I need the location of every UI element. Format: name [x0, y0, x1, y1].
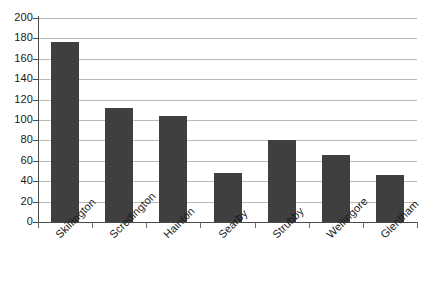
x-tick-mark	[38, 222, 39, 228]
y-tick-label-wrap: 140	[0, 73, 33, 84]
y-tick-label-wrap: 60	[0, 155, 33, 166]
bar[interactable]	[159, 116, 187, 222]
y-tick-label-wrap: 20	[0, 196, 33, 207]
y-tick-label-wrap: 160	[0, 53, 33, 64]
x-tick-mark	[200, 222, 201, 228]
x-tick-mark	[363, 222, 364, 228]
bar-chart: 020406080100120140160180200 SkillingtonS…	[0, 0, 431, 296]
y-tick-label: 160	[3, 53, 33, 64]
y-tick-label: 200	[3, 12, 33, 23]
y-tick-label-wrap: 100	[0, 114, 33, 125]
y-tick-label: 140	[3, 73, 33, 84]
y-tick-label-wrap: 120	[0, 94, 33, 105]
y-tick-label: 180	[3, 32, 33, 43]
bar[interactable]	[51, 42, 79, 222]
y-tick-label: 100	[3, 114, 33, 125]
y-tick-label: 80	[3, 134, 33, 145]
x-tick-mark	[417, 222, 418, 228]
y-tick-label-wrap: 0	[0, 216, 33, 227]
y-tick-label: 20	[3, 196, 33, 207]
y-tick-label: 0	[3, 216, 33, 227]
y-tick-label: 60	[3, 155, 33, 166]
y-tick-label-wrap: 180	[0, 32, 33, 43]
y-tick-label: 120	[3, 94, 33, 105]
y-tick-label-wrap: 40	[0, 175, 33, 186]
y-tick-label: 40	[3, 175, 33, 186]
x-tick-mark	[255, 222, 256, 228]
x-tick-mark	[309, 222, 310, 228]
x-tick-mark	[92, 222, 93, 228]
x-tick-mark	[146, 222, 147, 228]
bars-layer	[38, 18, 417, 222]
y-tick-label-wrap: 80	[0, 134, 33, 145]
bar[interactable]	[105, 108, 133, 222]
y-tick-label-wrap: 200	[0, 12, 33, 23]
